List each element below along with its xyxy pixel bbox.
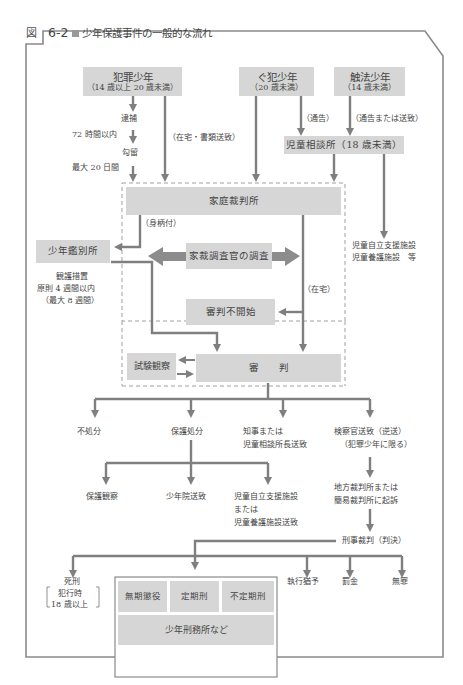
- source-label: 触法少年: [350, 71, 390, 83]
- outcome-chiji-1: 知事または: [243, 427, 283, 437]
- node-teikikei: 定期刑: [170, 581, 219, 612]
- investigation-arrow-left: [148, 247, 186, 266]
- node-label: 試験観察: [134, 361, 170, 371]
- bakkin: 罰金: [342, 577, 358, 587]
- node-label: 少年鑑別所: [48, 246, 98, 257]
- node-label: 審 判: [249, 363, 289, 374]
- label-zaitaku-shorui: （在宅・書類送致）: [168, 133, 240, 143]
- hogo-shonenin: 少年院送致: [166, 492, 206, 502]
- label-tsukoku-soichi: （通告または送致）: [351, 114, 423, 124]
- outcome-chiji-2: 児童相談所長送致: [243, 440, 307, 450]
- node-jido-sodanjo: 児童相談所（18 歳未満）: [284, 136, 404, 154]
- node-muki-choeki: 無期懲役: [118, 581, 167, 612]
- source-guhan-shonen: ぐ犯少年 （20 歳未満）: [239, 67, 314, 96]
- source-hanzai-shonen: 犯罪少年 （14 歳以上 20 歳未満）: [83, 67, 182, 96]
- source-age: （20 歳未満）: [250, 83, 303, 92]
- node-label: 不定期刑: [230, 592, 266, 602]
- kiso-line-2: 簡易裁判所に起訴: [334, 496, 398, 506]
- node-label: 家裁調査官の調査: [189, 251, 269, 262]
- source-label: 犯罪少年: [113, 71, 153, 83]
- figure-title: 少年保護事件の一般的な流れ: [82, 27, 212, 39]
- node-label: 少年刑務所など: [165, 625, 228, 635]
- source-age: （14 歳未満）: [343, 83, 396, 92]
- figure-label: 図: [26, 27, 37, 40]
- figure-heading: 図 6-2少年保護事件の一般的な流れ: [26, 22, 212, 41]
- hogo-kansatsu: 保護観察: [86, 492, 118, 502]
- kiso-line-1: 地方裁判所または: [334, 483, 398, 493]
- kango-line-1: 観護措置: [56, 272, 88, 282]
- node-label: 家庭裁判所: [209, 196, 259, 207]
- label-taiho: 逮捕: [121, 114, 137, 124]
- label-zaitaku: （在宅）: [303, 285, 335, 295]
- investigation-arrow-right: [272, 247, 300, 266]
- shikei: 死刑: [64, 577, 80, 587]
- outcome-kensatsu-2: （犯罪少年に限る）: [340, 440, 412, 450]
- kango-line-2: 原則 4 週間以内: [37, 284, 95, 294]
- hogo-shisetsu-1: 児童自立支援施設: [234, 492, 298, 502]
- keiji-saiban: 刑事裁判（判決）: [342, 536, 406, 546]
- shikko-yuyo: 執行猶予: [287, 577, 319, 587]
- node-shinpan-fukaishi: 審判不開始: [186, 299, 275, 325]
- square-bullet-icon: [72, 30, 79, 37]
- source-shokuho-shonen: 触法少年 （14 歳未満）: [334, 67, 405, 96]
- label-max20: 最大 20 日間: [72, 163, 119, 173]
- node-futeikikei: 不定期刑: [222, 581, 274, 612]
- figure-number: 6-2: [48, 25, 68, 40]
- label-72h: 72 時間以内: [72, 130, 117, 140]
- figure-frame: [26, 31, 443, 657]
- muzai: 無罪: [392, 577, 408, 587]
- source-label: ぐ犯少年: [257, 71, 297, 83]
- node-label: 無期懲役: [125, 592, 161, 602]
- node-jido-shisetsu-1: 児童自立支援施設: [352, 241, 416, 251]
- hogo-shisetsu-3: 児童養護施設送致: [234, 518, 298, 528]
- label-tsukoku: （通告）: [302, 114, 334, 124]
- outcome-kensatsu-1: 検察官送致（逆送）: [334, 427, 406, 437]
- node-label: 審判不開始: [206, 307, 256, 318]
- node-shinpan: 審 判: [196, 354, 341, 382]
- node-kanbetsusho: 少年鑑別所: [36, 240, 110, 263]
- label-koryu: 勾留: [122, 148, 138, 158]
- node-shonen-keimusho: 少年刑務所など: [118, 615, 274, 645]
- label-migaratsuki: （身柄付）: [141, 219, 181, 229]
- source-age: （14 歳以上 20 歳未満）: [87, 83, 179, 92]
- node-katei-saibansho: 家庭裁判所: [126, 187, 341, 215]
- outcome-hogo-shobun: 保護処分: [171, 427, 203, 437]
- node-shiken-kansatsu: 試験観察: [127, 353, 176, 380]
- node-jido-shisetsu-2: 児童養護施設 等: [352, 253, 416, 263]
- kango-line-3: （最大 8 週間）: [41, 296, 99, 306]
- shikei-cond-1: 犯行時: [58, 589, 82, 599]
- node-label: 定期刑: [181, 592, 208, 602]
- outcome-fushobun: 不処分: [77, 427, 101, 437]
- hogo-shisetsu-2: または: [234, 505, 258, 515]
- node-label: 児童相談所（18 歳未満）: [286, 139, 401, 151]
- shikei-cond-2: 18 歳以上: [51, 600, 88, 610]
- node-chosakan: 家裁調査官の調査: [186, 243, 272, 269]
